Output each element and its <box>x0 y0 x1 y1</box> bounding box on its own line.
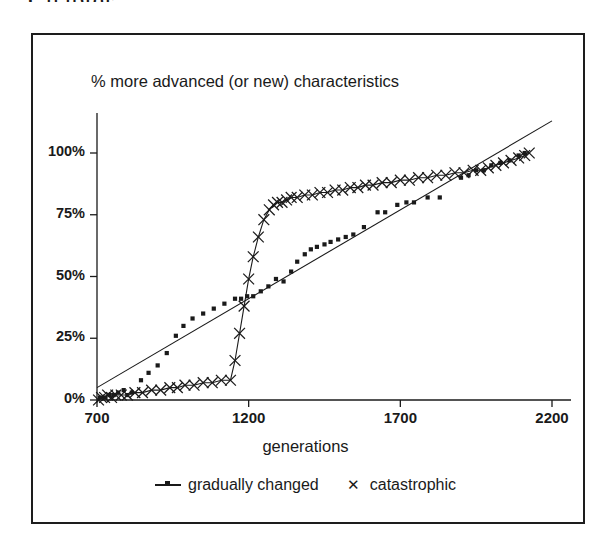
data-point-catastrophic <box>248 251 259 262</box>
data-point-gradually-changed <box>222 302 226 306</box>
data-point-gradually-changed <box>412 200 416 204</box>
data-point-gradually-changed <box>122 388 126 392</box>
data-point-gradually-changed <box>395 203 399 207</box>
data-point-catastrophic <box>234 328 245 339</box>
data-point-gradually-changed <box>130 390 134 394</box>
data-point-gradually-changed <box>482 168 486 172</box>
chart-plot-area <box>0 0 611 550</box>
data-point-gradually-changed <box>507 158 511 162</box>
data-point-gradually-changed <box>116 390 120 394</box>
y-tick-label: 100% <box>1 143 85 159</box>
data-point-gradually-changed <box>351 232 355 236</box>
x-tick-label: 700 <box>57 409 137 426</box>
data-point-gradually-changed <box>245 294 249 298</box>
data-point-catastrophic <box>239 301 250 312</box>
data-point-gradually-changed <box>125 393 129 397</box>
x-axis-title: generations <box>0 437 611 456</box>
data-point-gradually-changed <box>466 173 470 177</box>
data-point-gradually-changed <box>459 176 463 180</box>
data-point-gradually-changed <box>139 378 143 382</box>
x-tick-label: 2200 <box>512 409 592 426</box>
legend-entry-gradually-changed: gradually changed <box>155 476 319 494</box>
data-point-gradually-changed <box>289 269 293 273</box>
catastrophic-series-line <box>99 153 530 400</box>
y-tick-label: 0% <box>1 390 85 406</box>
data-point-gradually-changed <box>309 247 313 251</box>
data-point-gradually-changed <box>375 210 379 214</box>
data-point-gradually-changed <box>517 153 521 157</box>
data-point-gradually-changed <box>212 307 216 311</box>
data-point-gradually-changed <box>165 351 169 355</box>
data-point-gradually-changed <box>266 284 270 288</box>
data-point-catastrophic <box>243 274 254 285</box>
data-point-gradually-changed <box>303 252 307 256</box>
data-point-gradually-changed <box>362 225 366 229</box>
legend-label-gradually-changed: gradually changed <box>188 476 319 494</box>
legend-line-square-icon <box>155 478 181 492</box>
data-point-gradually-changed <box>281 279 285 283</box>
data-point-gradually-changed <box>474 168 478 172</box>
x-tick-label: 1200 <box>209 409 289 426</box>
chart-axes <box>97 113 571 400</box>
gradually-changed-series-markers <box>98 151 527 400</box>
data-point-gradually-changed <box>295 260 299 264</box>
page-root: Chapter % more advanced (or new) charact… <box>0 0 611 550</box>
data-point-gradually-changed <box>239 297 243 301</box>
data-point-gradually-changed <box>251 294 255 298</box>
data-point-gradually-changed <box>190 316 194 320</box>
data-point-gradually-changed <box>315 245 319 249</box>
legend-label-catastrophic: catastrophic <box>370 476 456 494</box>
data-point-catastrophic <box>268 199 279 210</box>
y-tick-label: 75% <box>1 205 85 221</box>
data-point-gradually-changed <box>438 195 442 199</box>
data-point-catastrophic <box>258 214 269 225</box>
data-point-gradually-changed <box>274 277 278 281</box>
data-point-gradually-changed <box>103 395 107 399</box>
data-point-gradually-changed <box>498 161 502 165</box>
data-point-gradually-changed <box>426 195 430 199</box>
data-point-gradually-changed <box>233 297 237 301</box>
legend-entry-catastrophic: ✕ catastrophic <box>345 476 456 494</box>
y-tick-label: 25% <box>1 328 85 344</box>
data-point-gradually-changed <box>181 324 185 328</box>
data-point-gradually-changed <box>383 210 387 214</box>
data-point-catastrophic <box>253 232 264 243</box>
data-point-gradually-changed <box>328 240 332 244</box>
data-point-gradually-changed <box>156 363 160 367</box>
data-point-gradually-changed <box>344 235 348 239</box>
data-point-gradually-changed <box>259 289 263 293</box>
data-point-gradually-changed <box>322 242 326 246</box>
x-tick-label: 1700 <box>360 409 440 426</box>
data-point-gradually-changed <box>336 237 340 241</box>
y-tick-label: 50% <box>1 267 85 283</box>
data-point-gradually-changed <box>108 393 112 397</box>
data-point-gradually-changed <box>201 311 205 315</box>
data-point-gradually-changed <box>489 163 493 167</box>
data-point-gradually-changed <box>174 334 178 338</box>
data-point-gradually-changed <box>146 371 150 375</box>
data-point-gradually-changed <box>112 393 116 397</box>
data-point-gradually-changed <box>523 151 527 155</box>
chart-legend: gradually changed ✕ catastrophic <box>0 476 611 494</box>
gradually-changed-trendline <box>97 121 552 388</box>
data-point-gradually-changed <box>404 200 408 204</box>
data-point-catastrophic <box>230 355 241 366</box>
data-point-gradually-changed <box>98 395 102 399</box>
legend-x-icon: ✕ <box>345 476 363 494</box>
